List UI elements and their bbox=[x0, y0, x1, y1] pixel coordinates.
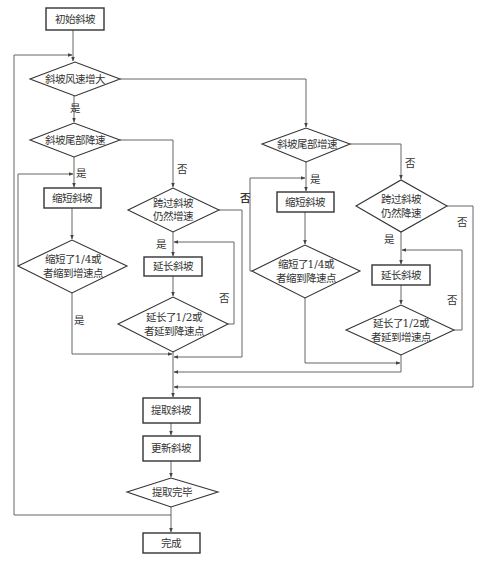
node-shorten-right: 缩短斜坡 bbox=[277, 192, 334, 212]
edge-tail-decel-to-cross bbox=[120, 140, 173, 187]
svg-text:延长斜坡: 延长斜坡 bbox=[381, 269, 422, 281]
svg-text:延长斜坡: 延长斜坡 bbox=[153, 260, 194, 272]
node-extract: 提取斜坡 bbox=[143, 398, 200, 423]
node-extract-done: 提取完毕 bbox=[127, 478, 218, 507]
svg-text:者缩到增速点: 者缩到增速点 bbox=[43, 267, 103, 279]
svg-text:者延到增速点: 者延到增速点 bbox=[371, 331, 431, 343]
node-shorten-check-left: 缩短了1/4或 者缩到增速点 bbox=[18, 240, 127, 293]
node-cross-still-decel: 跨过斜坡 仍然降速 bbox=[356, 180, 447, 232]
flowchart: 是 是 否 是 是 否 否 是 否 否 是 否 否 初始斜坡 斜坡风速增大 斜坡… bbox=[0, 0, 482, 565]
svg-text:缩短斜坡: 缩短斜坡 bbox=[52, 192, 93, 204]
svg-text:缩短斜坡: 缩短斜坡 bbox=[285, 196, 326, 208]
svg-text:跨过斜坡: 跨过斜坡 bbox=[153, 197, 194, 209]
svg-text:完成: 完成 bbox=[161, 537, 182, 549]
svg-text:提取斜坡: 提取斜坡 bbox=[151, 404, 192, 416]
label-no-tail-accel: 否 bbox=[405, 157, 416, 169]
svg-text:斜坡风速增大: 斜坡风速增大 bbox=[45, 73, 106, 85]
svg-text:缩短了1/4或: 缩短了1/4或 bbox=[45, 253, 103, 265]
label-yes-tail-decel: 是 bbox=[76, 167, 87, 179]
svg-text:更新斜坡: 更新斜坡 bbox=[151, 442, 192, 454]
edge-tail-accel-to-cross bbox=[350, 144, 401, 179]
node-extend-check-right: 延长了1/2或 者延到增速点 bbox=[346, 305, 454, 355]
node-wind-increase: 斜坡风速增大 bbox=[30, 62, 120, 96]
svg-text:跨过斜坡: 跨过斜坡 bbox=[381, 193, 422, 205]
svg-text:仍然降速: 仍然降速 bbox=[381, 207, 422, 219]
node-update: 更新斜坡 bbox=[143, 436, 200, 461]
svg-text:者延到降速点: 者延到降速点 bbox=[144, 325, 204, 337]
node-finish: 完成 bbox=[143, 533, 200, 553]
node-extend-left: 延长斜坡 bbox=[144, 257, 202, 276]
label-yes-check-left: 是 bbox=[74, 314, 85, 326]
node-shorten-check-right: 缩短了1/4或 者缩到降速点 bbox=[252, 245, 360, 298]
label-yes-tail-accel: 是 bbox=[310, 173, 321, 185]
svg-text:延长了1/2或: 延长了1/2或 bbox=[373, 317, 431, 329]
edge-wind-to-tail-accel bbox=[120, 79, 306, 127]
node-extend-right: 延长斜坡 bbox=[372, 265, 430, 285]
node-extend-check-left: 延长了1/2或 者延到降速点 bbox=[118, 297, 228, 352]
svg-text:延长了1/2或: 延长了1/2或 bbox=[146, 311, 204, 323]
svg-text:斜坡尾部降速: 斜坡尾部降速 bbox=[45, 134, 106, 146]
label-no-check-right: 否 bbox=[240, 192, 251, 204]
svg-text:者缩到降速点: 者缩到降速点 bbox=[276, 272, 336, 284]
edge-extend-check-right-exit bbox=[174, 355, 401, 372]
svg-text:缩短了1/4或: 缩短了1/4或 bbox=[278, 258, 336, 270]
label-yes-wind: 是 bbox=[70, 102, 81, 114]
node-cross-still-accel: 跨过斜坡 仍然增速 bbox=[128, 188, 219, 232]
label-no-cross-right: 否 bbox=[457, 216, 468, 228]
label-no-extend-left: 否 bbox=[219, 292, 230, 304]
svg-text:初始斜坡: 初始斜坡 bbox=[55, 13, 96, 25]
node-start: 初始斜坡 bbox=[46, 8, 104, 30]
svg-text:仍然增速: 仍然增速 bbox=[153, 210, 194, 222]
node-shorten-left: 缩短斜坡 bbox=[44, 188, 101, 208]
node-tail-accel: 斜坡尾部增速 bbox=[262, 128, 350, 162]
svg-text:提取完毕: 提取完毕 bbox=[152, 486, 192, 498]
label-no-tail-decel: 否 bbox=[177, 163, 188, 175]
label-no-extend-right: 否 bbox=[447, 294, 458, 306]
label-yes-cross-right: 是 bbox=[384, 233, 395, 245]
node-tail-decel: 斜坡尾部降速 bbox=[30, 123, 120, 157]
label-yes-cross-left: 是 bbox=[156, 238, 167, 250]
svg-text:斜坡尾部增速: 斜坡尾部增速 bbox=[277, 138, 338, 150]
